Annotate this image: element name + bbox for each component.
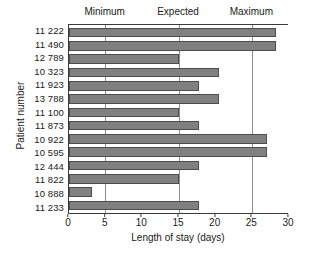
bar	[69, 187, 92, 197]
bar	[69, 81, 199, 91]
bar-row	[69, 199, 288, 212]
bar-row	[69, 185, 288, 198]
x-axis-tick-label: 10	[136, 218, 147, 228]
bar	[69, 121, 199, 131]
x-axis-tick: 0	[65, 214, 71, 228]
bar	[69, 161, 199, 171]
x-axis-tick: 5	[102, 214, 108, 228]
bar-row	[69, 66, 288, 79]
y-axis-tick-label: 10 323	[18, 65, 64, 79]
x-axis-tick-label: 0	[65, 218, 71, 228]
x-axis-tick: 15	[172, 214, 183, 228]
y-axis-tick-label: 10 922	[18, 133, 64, 147]
reference-line-labels: MinimumExpectedMaximum	[68, 6, 288, 22]
bar-row	[69, 132, 288, 145]
x-axis-tick: 25	[246, 214, 257, 228]
reference-line-label-maximum: Maximum	[230, 6, 273, 17]
y-axis-tick-label: 10 888	[18, 187, 64, 201]
y-axis-tick-label: 11 490	[18, 38, 64, 52]
bar	[69, 68, 219, 78]
x-axis-tick-label: 5	[102, 218, 108, 228]
bar-row	[69, 26, 288, 39]
bar-row	[69, 119, 288, 132]
bar-chart: Patient number 11 22211 49012 78910 3231…	[0, 0, 309, 269]
bar-row	[69, 53, 288, 66]
bar	[69, 54, 179, 64]
x-axis-tick-label: 15	[172, 218, 183, 228]
y-axis-tick-label: 13 788	[18, 92, 64, 106]
bar-series	[69, 25, 288, 213]
y-axis-tick-label: 12 444	[18, 160, 64, 174]
bar	[69, 94, 219, 104]
bar-row	[69, 159, 288, 172]
y-axis-tick-label: 11 822	[18, 173, 64, 187]
y-axis-tick-label: 11 873	[18, 119, 64, 133]
bar	[69, 134, 267, 144]
bar	[69, 201, 199, 211]
y-axis-tick-label: 10 595	[18, 146, 64, 160]
x-axis-tick: 30	[282, 214, 293, 228]
bar	[69, 41, 276, 51]
x-axis-tick-label: 20	[209, 218, 220, 228]
y-axis-tick-label: 12 789	[18, 51, 64, 65]
x-axis-tick-label: 30	[282, 218, 293, 228]
y-axis-tick-labels: 11 22211 49012 78910 32311 92313 78811 1…	[18, 24, 64, 214]
x-axis-title: Length of stay (days)	[68, 232, 288, 243]
bar-row	[69, 172, 288, 185]
bar	[69, 28, 276, 38]
bar-row	[69, 106, 288, 119]
bar	[69, 147, 267, 157]
x-axis-tick: 10	[136, 214, 147, 228]
x-axis-tick-labels: 051015202530	[68, 214, 288, 230]
x-axis-tick: 20	[209, 214, 220, 228]
bar	[69, 174, 179, 184]
reference-line-label-expected: Expected	[157, 6, 199, 17]
bar	[69, 108, 179, 118]
y-axis-tick-label: 11 100	[18, 105, 64, 119]
plot-area	[68, 24, 288, 214]
y-axis-tick-label: 11 222	[18, 24, 64, 38]
x-axis-tick-label: 25	[246, 218, 257, 228]
y-axis-tick-label: 11 923	[18, 78, 64, 92]
bar-row	[69, 92, 288, 105]
bar-row	[69, 146, 288, 159]
bar-row	[69, 39, 288, 52]
reference-line-label-minimum: Minimum	[84, 6, 125, 17]
bar-row	[69, 79, 288, 92]
y-axis-tick-label: 11 233	[18, 201, 64, 215]
